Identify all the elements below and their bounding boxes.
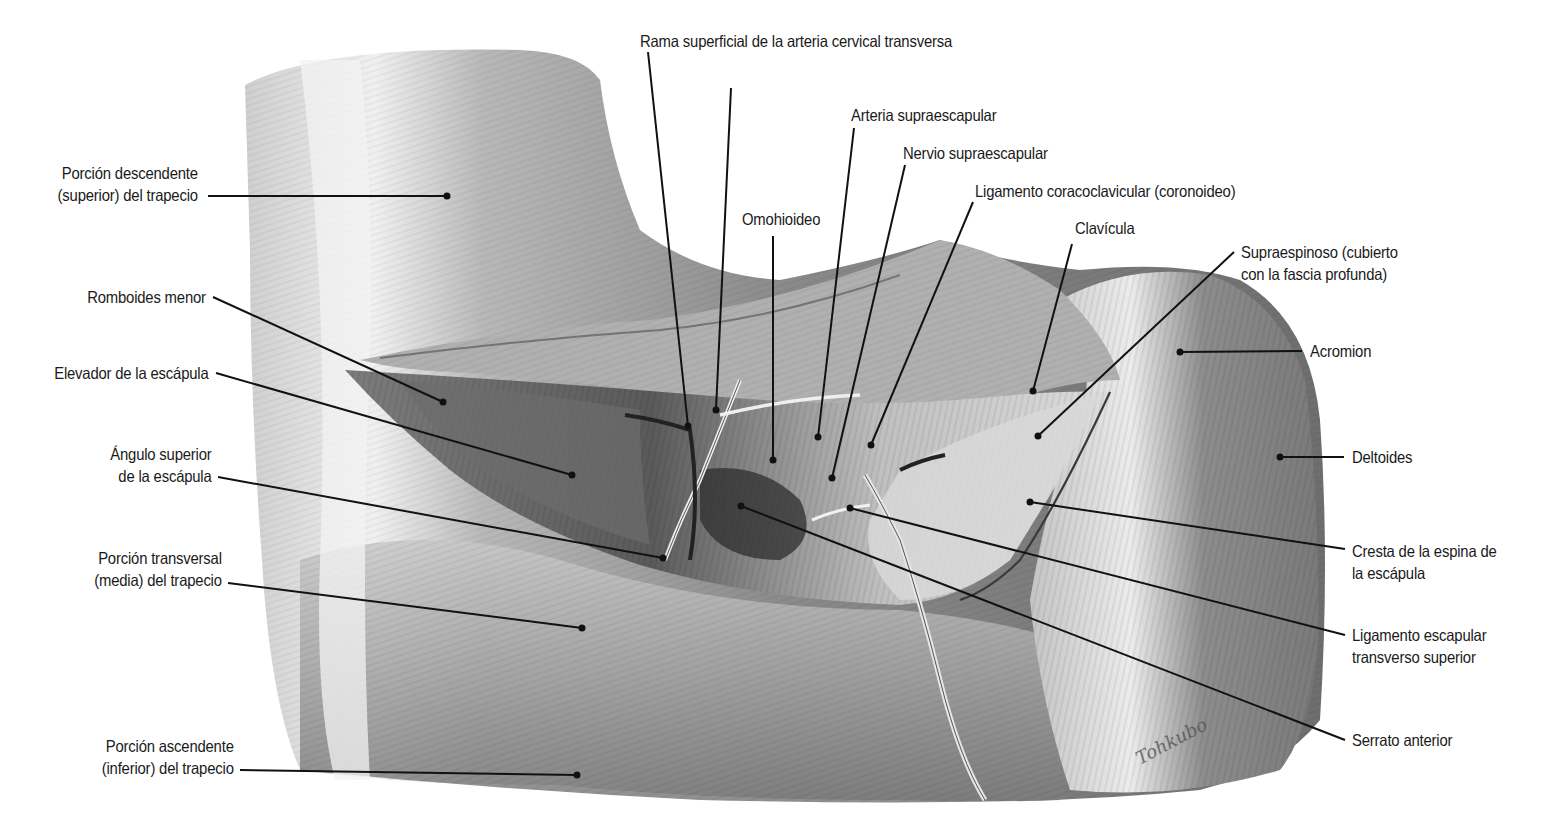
label-serrato-anterior: Serrato anterior — [1352, 729, 1452, 751]
label-porcion-ascendente-trapecio: Porción ascendente (inferior) del trapec… — [102, 735, 234, 779]
label-elevador-escapula: Elevador de la escápula — [55, 362, 209, 384]
label-rama-superficial-arteria-cervical: Rama superficial de la arteria cervical … — [640, 30, 952, 52]
label-cresta-espina-escapula: Cresta de la espina de la escápula — [1352, 540, 1497, 584]
label-arteria-supraescapular: Arteria supraescapular — [851, 104, 996, 126]
anatomy-illustration: Tohkubo — [0, 0, 1551, 825]
label-porcion-transversal-trapecio: Porción transversal (media) del trapecio — [94, 547, 222, 591]
label-romboides-menor: Romboides menor — [87, 286, 206, 308]
label-omohioideo: Omohioideo — [742, 208, 820, 230]
label-ligamento-escapular-transverso: Ligamento escapular transverso superior — [1352, 624, 1486, 668]
label-angulo-superior-escapula: Ángulo superior de la escápula — [111, 443, 212, 487]
label-ligamento-coracoclavicular: Ligamento coracoclavicular (coronoideo) — [975, 180, 1235, 202]
label-acromion: Acromion — [1310, 340, 1371, 362]
label-nervio-supraescapular: Nervio supraescapular — [903, 142, 1048, 164]
label-clavicula: Clavícula — [1075, 217, 1134, 239]
label-supraespinoso: Supraespinoso (cubierto con la fascia pr… — [1241, 241, 1398, 285]
label-porcion-descendente-trapecio: Porción descendente (superior) del trape… — [58, 162, 198, 206]
label-deltoides: Deltoides — [1352, 446, 1412, 468]
